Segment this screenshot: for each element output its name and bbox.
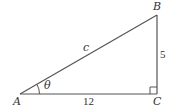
triangle-edges — [20, 15, 157, 94]
angle-label-theta: θ — [44, 79, 51, 92]
angle-arc-icon — [37, 84, 40, 94]
vertex-label-c: C — [153, 95, 162, 108]
side-label-5: 5 — [160, 48, 166, 60]
side-label-c: c — [83, 41, 89, 54]
vertex-label-a: A — [12, 95, 21, 108]
vertex-label-b: B — [152, 0, 161, 13]
triangle-diagram: A B C c 5 12 θ — [0, 0, 171, 110]
right-angle-marker-icon — [150, 87, 157, 94]
side-hypotenuse — [20, 15, 157, 94]
side-label-12: 12 — [83, 95, 94, 107]
